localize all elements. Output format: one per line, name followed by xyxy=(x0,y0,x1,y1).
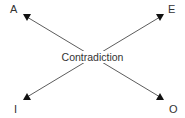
corner-label-i: I xyxy=(14,104,17,115)
contradiction-label: Contradiction xyxy=(61,51,125,63)
arrowhead-a-icon xyxy=(23,14,31,21)
arrowhead-o-icon xyxy=(156,93,164,100)
corner-label-o: O xyxy=(169,104,178,115)
contradiction-diagram: A E I O Contradiction xyxy=(0,0,185,118)
arrowhead-i-icon xyxy=(23,93,31,100)
arrowhead-e-icon xyxy=(156,14,164,21)
corner-label-a: A xyxy=(10,4,17,15)
corner-label-e: E xyxy=(168,4,175,15)
center-label-wrapper: Contradiction xyxy=(0,52,185,63)
